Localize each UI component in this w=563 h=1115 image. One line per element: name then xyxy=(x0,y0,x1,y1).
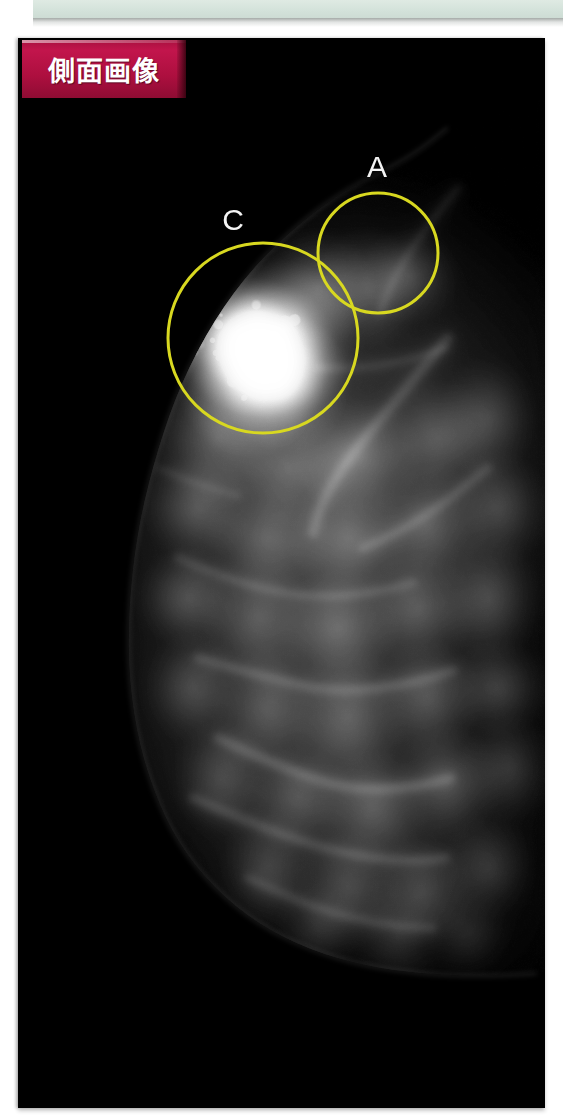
roi-annotation-overlay xyxy=(18,38,545,1108)
decorative-band xyxy=(33,0,563,18)
roi-label-a: A xyxy=(367,152,387,182)
view-label-badge: 側面画像 xyxy=(22,40,186,98)
roi-label-c: C xyxy=(222,205,244,235)
view-label-text: 側面画像 xyxy=(48,50,160,89)
mammogram-image-panel: AC xyxy=(18,38,545,1108)
roi-circle-a xyxy=(318,193,438,313)
roi-circle-c xyxy=(168,243,358,433)
decorative-band-shadow xyxy=(33,18,563,27)
